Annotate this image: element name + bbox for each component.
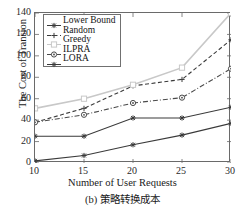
x-tick-label: 30 — [225, 166, 235, 176]
y-axis-label: The Cost of Transion — [17, 4, 28, 124]
legend-item-lora[interactable]: LORA — [46, 54, 116, 64]
y-tick-label: 20 — [21, 136, 31, 146]
series-lora — [35, 105, 231, 139]
open-square-marker — [46, 35, 62, 44]
x-axis-label: Number of User Requests — [0, 177, 245, 188]
figure-caption: (b) 策略转换成本 — [0, 191, 245, 206]
figure-container: 020406080100120140 The Cost of Transion … — [0, 0, 245, 207]
star-marker — [46, 16, 62, 25]
plus-marker — [46, 26, 62, 35]
x-tick-label: 15 — [78, 166, 88, 176]
star-marker — [46, 55, 62, 64]
series-lower-bound — [35, 121, 231, 163]
circle-marker — [46, 45, 62, 54]
x-tick-label: 20 — [127, 166, 137, 176]
x-tick-label: 25 — [176, 166, 186, 176]
legend: Lower BoundRandomGreedyILPRALORA — [43, 14, 121, 67]
x-tick-label: 10 — [29, 166, 39, 176]
legend-item-label: LORA — [62, 54, 89, 64]
